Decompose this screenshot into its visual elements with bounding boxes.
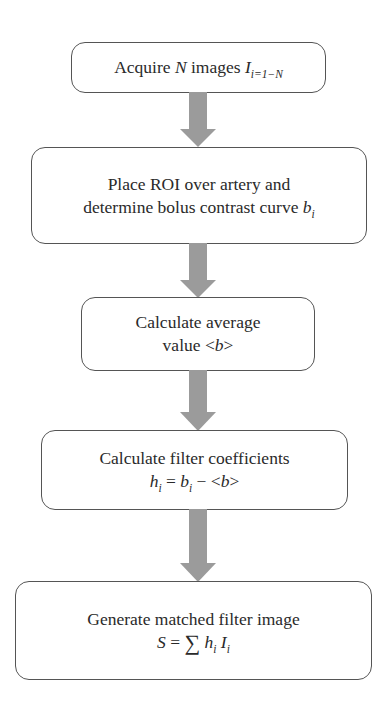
label-text: > [224, 335, 234, 355]
subscript-range: i=1−N [251, 68, 283, 80]
step-matched-line1: Generate matched filter image [87, 608, 299, 631]
sigma-sum-icon: ∑ [184, 630, 200, 655]
subscript-i: i [227, 643, 230, 655]
label-text: determine bolus contrast curve [83, 197, 303, 217]
step-average-line1: Calculate average [136, 311, 261, 334]
step-calculate-average: Calculate average value <b> [81, 297, 315, 371]
label-text: value < [163, 335, 215, 355]
equals-sign: = [166, 632, 185, 652]
label-text: images [187, 57, 245, 77]
label-text: > [229, 471, 239, 491]
subscript-i: i [213, 643, 216, 655]
equals-sign: = [162, 471, 181, 491]
var-h: h [205, 632, 214, 652]
step-generate-matched-filter: Generate matched filter image S = ∑ hi I… [15, 581, 372, 680]
var-b: b [215, 335, 224, 355]
step-coefficients-line1: Calculate filter coefficients [99, 447, 289, 470]
down-arrow-icon [179, 92, 217, 147]
subscript-i: i [312, 208, 315, 220]
var-s: S [157, 632, 166, 652]
minus-sign: − < [192, 471, 221, 491]
down-arrow-icon [179, 370, 217, 431]
var-b: b [303, 197, 312, 217]
step-average-line2: value <b> [163, 334, 234, 357]
var-b: b [180, 471, 189, 491]
step-acquire-images: Acquire N images Ii=1−N [71, 42, 326, 93]
step-roi-line2: determine bolus contrast curve bi [83, 196, 315, 219]
step-matched-equation: S = ∑ hi Ii [157, 631, 230, 654]
step-filter-coefficients: Calculate filter coefficients hi = bi − … [41, 430, 348, 510]
step-roi-line1: Place ROI over artery and [108, 173, 291, 196]
var-n: N [175, 57, 187, 77]
step-place-roi: Place ROI over artery and determine bolu… [31, 147, 367, 244]
label-text: Acquire [114, 57, 175, 77]
step-coefficients-equation: hi = bi − <b> [150, 470, 240, 493]
down-arrow-icon [179, 509, 217, 582]
step-acquire-text: Acquire N images Ii=1−N [114, 56, 283, 79]
down-arrow-icon [179, 243, 217, 298]
